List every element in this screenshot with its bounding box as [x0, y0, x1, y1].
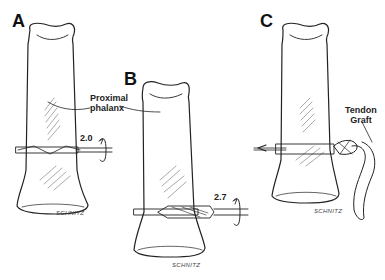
signature-a: SCHNITZ — [56, 210, 84, 216]
proximal-phalanx-label: Proximal phalanx — [90, 94, 128, 114]
panel-label-c: C — [260, 12, 273, 30]
panel-label-a: A — [12, 12, 25, 30]
signature-c: SCHNITZ — [314, 208, 342, 214]
bone-a — [16, 23, 112, 214]
surgical-illustration — [0, 0, 385, 280]
bone-b — [120, 82, 248, 257]
drill-size-a: 2.0 — [80, 134, 93, 144]
tendon-graft-line-2: Graft — [345, 116, 377, 126]
tendon-graft-label: Tendon Graft — [345, 106, 377, 126]
panel-label-b: B — [124, 70, 137, 88]
proximal-phalanx-line-2: phalanx — [90, 104, 128, 114]
drill-size-b: 2.7 — [214, 193, 227, 203]
signature-b: SCHNITZ — [172, 262, 200, 268]
